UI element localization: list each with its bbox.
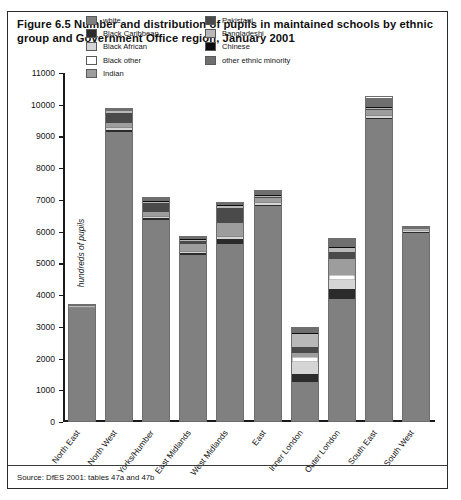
x-axis-label: South West <box>382 428 416 468</box>
y-tick-label: 3000 <box>13 322 55 332</box>
bar-east[interactable] <box>254 190 282 422</box>
y-tick-label: 4000 <box>13 290 55 300</box>
y-tick-mark <box>59 168 63 169</box>
bar-segment-white <box>180 255 206 421</box>
bar-segment-pakistani <box>106 113 132 123</box>
y-tick-label: 9000 <box>13 131 55 141</box>
x-axis-label: West Midlands <box>189 428 231 477</box>
bar-segment-other-ethnic-minority <box>366 98 392 107</box>
y-axis-title: hundreds of pupils <box>76 218 86 286</box>
bar-yorks-humber[interactable] <box>142 197 170 422</box>
x-axis-label: Yorks/Humber <box>116 428 156 476</box>
bar-north-east[interactable] <box>68 304 96 422</box>
x-axis-label: East <box>249 428 267 447</box>
bar-segment-white <box>329 299 355 421</box>
bar-segment-black-caribbean <box>292 374 318 382</box>
bar-segment-white <box>69 308 95 421</box>
bar-segment-black-african <box>292 362 318 374</box>
x-axis-label: East Midlands <box>153 428 193 476</box>
legend-item-white: white <box>86 14 159 27</box>
legend-item-black-african: Black African <box>86 40 159 53</box>
legend-label: other ethnic minority <box>222 56 290 65</box>
y-tick-mark <box>59 422 63 423</box>
legend-swatch-black-african-icon <box>86 42 97 51</box>
y-tick-mark <box>59 73 63 74</box>
y-tick-mark <box>59 390 63 391</box>
bar-south-east[interactable] <box>365 96 393 422</box>
legend-item-black-other: Black other <box>86 54 159 67</box>
legend-column-1: whiteBlack CaribbeanBlack AfricanBlack o… <box>86 14 159 80</box>
legend-swatch-bangladeshi-icon <box>205 29 216 38</box>
legend-item-other-ethnic-minority: other ethnic minority <box>205 54 290 67</box>
y-axis-line <box>63 73 65 422</box>
legend-swatch-white-icon <box>86 16 97 25</box>
legend-item-chinese: Chinese <box>205 40 290 53</box>
y-tick-mark <box>59 136 63 137</box>
source-divider <box>8 465 447 466</box>
legend-item-bangladeshi: Bangladeshi <box>205 27 290 40</box>
bar-segment-bangladeshi <box>292 334 318 347</box>
bar-north-west[interactable] <box>105 108 133 422</box>
chart-legend: whiteBlack CaribbeanBlack AfricanBlack o… <box>86 14 316 80</box>
x-axis-label: North East <box>49 428 81 465</box>
y-tick-mark <box>59 105 63 106</box>
bar-segment-white <box>255 206 281 421</box>
y-tick-label: 7000 <box>13 195 55 205</box>
legend-label: white <box>103 16 121 25</box>
bar-south-west[interactable] <box>402 226 430 422</box>
y-tick-label: 1000 <box>13 385 55 395</box>
legend-label: Bangladeshi <box>222 29 264 38</box>
legend-swatch-chinese-icon <box>205 42 216 51</box>
figure-panel: Figure 6.5 Number and distribution of pu… <box>7 11 448 489</box>
bar-segment-pakistani <box>329 252 355 260</box>
y-tick-label: 10000 <box>13 100 55 110</box>
bar-segment-white <box>217 244 243 421</box>
legend-item-black-caribbean: Black Caribbean <box>86 27 159 40</box>
y-tick-mark <box>59 200 63 201</box>
legend-swatch-pakistani-icon <box>205 16 216 25</box>
bar-segment-white <box>106 132 132 421</box>
legend-swatch-black-caribbean-icon <box>86 29 97 38</box>
bar-segment-white <box>366 119 392 421</box>
y-tick-mark <box>59 359 63 360</box>
legend-column-2: PakistaniBangladeshiChineseother ethnic … <box>205 14 290 67</box>
bar-segment-pakistani <box>217 208 243 223</box>
y-tick-mark <box>59 295 63 296</box>
legend-label: Pakistani <box>222 16 253 25</box>
bar-segment-other-ethnic-minority <box>329 239 355 247</box>
bar-inner-london[interactable] <box>291 327 319 422</box>
bar-west-midlands[interactable] <box>216 202 244 423</box>
legend-swatch-black-other-icon <box>86 56 97 65</box>
y-tick-label: 2000 <box>13 354 55 364</box>
bar-east-midlands[interactable] <box>179 236 207 422</box>
bar-segment-white <box>403 233 429 421</box>
y-tick-mark <box>59 327 63 328</box>
y-tick-mark <box>59 263 63 264</box>
y-tick-label: 8000 <box>13 163 55 173</box>
bar-segment-black-african <box>329 280 355 289</box>
legend-item-pakistani: Pakistani <box>205 14 290 27</box>
y-tick-label: 11000 <box>13 68 55 78</box>
legend-label: Black Caribbean <box>103 29 159 38</box>
x-axis-label: South East <box>346 428 379 466</box>
bar-outer-london[interactable] <box>328 238 356 422</box>
x-axis-label: Inner London <box>266 428 304 473</box>
plot-area: hundreds of pupils 010002000300040005000… <box>63 73 435 422</box>
legend-label: Black other <box>103 56 141 65</box>
y-tick-mark <box>59 232 63 233</box>
x-axis-label: Outer London <box>302 428 341 475</box>
bar-segment-indian <box>180 244 206 251</box>
bar-segment-indian <box>329 259 355 275</box>
legend-swatch-other-ethnic-minority-icon <box>205 56 216 65</box>
y-tick-label: 6000 <box>13 227 55 237</box>
y-tick-label: 5000 <box>13 258 55 268</box>
bar-segment-pakistani <box>143 203 169 212</box>
legend-label: Chinese <box>222 42 250 51</box>
bar-segment-indian <box>217 223 243 236</box>
y-tick-label: 0 <box>13 417 55 427</box>
source-note: Source: DfES 2001: tables 47a and 47b <box>17 473 154 482</box>
bar-segment-black-caribbean <box>329 289 355 298</box>
legend-label: Black African <box>103 42 147 51</box>
x-axis-label: North West <box>85 428 119 467</box>
bar-segment-white <box>292 382 318 421</box>
